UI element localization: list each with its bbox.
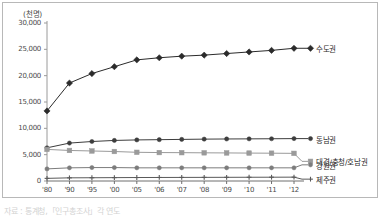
data-point-marker bbox=[45, 176, 50, 181]
x-tick-label: '12 bbox=[282, 186, 306, 194]
data-point-marker bbox=[135, 150, 140, 155]
data-point-marker bbox=[134, 175, 139, 180]
data-point-marker bbox=[180, 166, 184, 170]
y-tick-label: 30,000 bbox=[7, 19, 41, 27]
data-point-marker bbox=[90, 149, 95, 154]
y-tick-label: 25,000 bbox=[7, 45, 41, 53]
x-tick-label: '10 bbox=[237, 186, 261, 194]
x-tick-label: '07 bbox=[170, 186, 194, 194]
data-point-marker bbox=[224, 175, 229, 180]
data-point-marker bbox=[269, 166, 273, 170]
y-tick-label: 20,000 bbox=[7, 72, 41, 80]
data-point-marker bbox=[308, 177, 313, 182]
y-tick-label: 0 bbox=[7, 177, 41, 185]
data-point-marker bbox=[247, 166, 251, 170]
x-tick-label: '90 bbox=[57, 186, 81, 194]
chart-figure: (천명) 30,00025,00020,00015,00010,0005,000… bbox=[0, 0, 383, 216]
data-point-marker bbox=[67, 141, 71, 145]
data-point-marker bbox=[307, 45, 313, 51]
series-2 bbox=[45, 147, 297, 156]
data-point-marker bbox=[45, 147, 50, 152]
data-point-marker bbox=[135, 166, 139, 170]
source-caption: 자료 : 통계청,「인구총조사」각 연도 bbox=[4, 205, 120, 216]
series-label-3: 강원권 bbox=[316, 160, 336, 171]
data-point-marker bbox=[157, 175, 162, 180]
series-label-4: 제주권 bbox=[316, 174, 336, 185]
y-tick-label: 15,000 bbox=[7, 98, 41, 106]
data-point-marker bbox=[224, 151, 229, 156]
data-point-marker bbox=[224, 50, 230, 56]
data-point-marker bbox=[247, 137, 251, 141]
data-point-marker bbox=[135, 138, 139, 142]
series-layer bbox=[44, 45, 297, 181]
data-point-marker bbox=[90, 165, 94, 169]
data-point-marker bbox=[67, 175, 72, 180]
x-tick-label: '80 bbox=[35, 186, 59, 194]
data-point-marker bbox=[201, 52, 207, 58]
data-point-marker bbox=[202, 175, 207, 180]
x-tick-label: '05 bbox=[125, 186, 149, 194]
x-tick-label: '08 bbox=[192, 186, 216, 194]
caption-strip: 자료 : 통계청,「인구총조사」각 연도 bbox=[0, 202, 383, 216]
data-point-marker bbox=[90, 175, 95, 180]
data-point-marker bbox=[268, 47, 274, 53]
data-point-marker bbox=[202, 166, 206, 170]
series-1 bbox=[45, 137, 296, 150]
data-point-marker bbox=[269, 151, 274, 156]
series-label-1: 동남권 bbox=[316, 134, 336, 145]
x-tick-label: '00 bbox=[102, 186, 126, 194]
series-4 bbox=[45, 175, 297, 181]
data-point-marker bbox=[308, 163, 312, 167]
data-point-marker bbox=[246, 49, 252, 55]
data-point-marker bbox=[134, 57, 140, 63]
data-point-marker bbox=[225, 137, 229, 141]
data-point-marker bbox=[157, 150, 162, 155]
data-point-marker bbox=[247, 151, 252, 156]
data-point-marker bbox=[202, 137, 206, 141]
series-3 bbox=[45, 165, 296, 171]
data-point-marker bbox=[112, 165, 116, 169]
data-point-marker bbox=[180, 137, 184, 141]
data-point-marker bbox=[89, 70, 95, 76]
series-label-0: 수도권 bbox=[316, 43, 336, 54]
data-point-marker bbox=[225, 166, 229, 170]
data-point-marker bbox=[111, 64, 117, 70]
data-point-marker bbox=[269, 137, 273, 141]
axis-layer bbox=[44, 21, 304, 184]
data-point-marker bbox=[112, 175, 117, 180]
x-tick-label: '09 bbox=[215, 186, 239, 194]
data-point-marker bbox=[90, 139, 94, 143]
data-point-marker bbox=[179, 150, 184, 155]
chart-frame: (천명) 30,00025,00020,00015,00010,0005,000… bbox=[2, 2, 378, 198]
y-tick-label: 10,000 bbox=[7, 124, 41, 132]
data-point-marker bbox=[179, 175, 184, 180]
legend-connectors bbox=[294, 45, 314, 181]
data-point-marker bbox=[269, 175, 274, 180]
data-point-marker bbox=[157, 138, 161, 142]
y-tick-label: 5,000 bbox=[7, 151, 41, 159]
series-0 bbox=[44, 45, 297, 114]
data-point-marker bbox=[247, 175, 252, 180]
data-point-marker bbox=[112, 149, 117, 154]
data-point-marker bbox=[156, 55, 162, 61]
data-point-marker bbox=[308, 137, 312, 141]
data-point-marker bbox=[45, 167, 49, 171]
data-point-marker bbox=[157, 166, 161, 170]
x-tick-label: '95 bbox=[80, 186, 104, 194]
x-tick-label: '11 bbox=[260, 186, 284, 194]
data-point-marker bbox=[179, 53, 185, 59]
data-point-marker bbox=[67, 166, 71, 170]
data-point-marker bbox=[112, 138, 116, 142]
x-tick-label: '06 bbox=[147, 186, 171, 194]
data-point-marker bbox=[202, 151, 207, 156]
data-point-marker bbox=[67, 148, 72, 153]
